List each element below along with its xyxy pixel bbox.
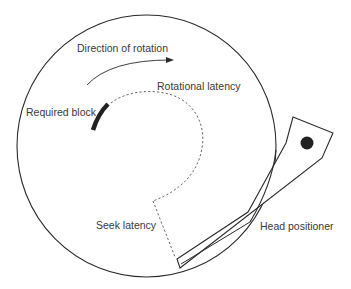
required-block-label: Required block xyxy=(26,106,97,118)
disk-diagram: Direction of rotation Rotational latency… xyxy=(0,0,351,289)
seek-latency-label: Seek latency xyxy=(96,219,157,231)
head-positioner xyxy=(177,117,333,268)
rotational-latency-path xyxy=(111,92,203,201)
direction-label: Direction of rotation xyxy=(77,42,168,54)
disk-platter xyxy=(17,15,276,277)
head-positioner-label: Head positioner xyxy=(260,220,334,232)
pivot-icon xyxy=(301,137,314,150)
seek-latency-path xyxy=(153,201,175,257)
rotational-latency-label: Rotational latency xyxy=(157,80,241,92)
